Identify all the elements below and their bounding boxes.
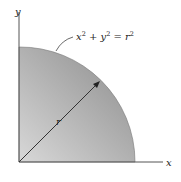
y-axis-label: y xyxy=(14,6,21,17)
circle-equation: x2 + y2 = r2 xyxy=(76,30,134,42)
x-axis-label: x xyxy=(166,157,172,168)
quarter-circle-diagram: y x r x2 + y2 = r2 xyxy=(0,0,181,182)
equation-leader xyxy=(56,37,73,51)
